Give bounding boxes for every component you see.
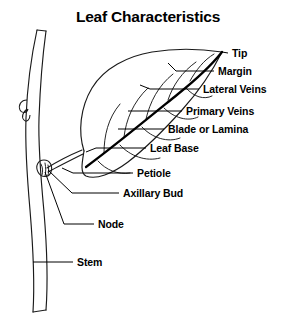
label-base: Leaf Base	[150, 142, 199, 154]
diagram-canvas: Leaf Characteristics T	[0, 0, 293, 335]
leaf-characteristics-diagram: Leaf Characteristics T	[0, 0, 293, 335]
label-stem: Stem	[77, 256, 102, 268]
label-margin: Margin	[218, 65, 252, 77]
stem-lateral-bud-scar-icon	[19, 100, 30, 121]
label-blade: Blade or Lamina	[168, 123, 248, 135]
page-title: Leaf Characteristics	[76, 8, 220, 25]
label-primary: Primary Veins	[186, 105, 254, 117]
axillary-bud-outline	[37, 160, 52, 177]
label-petiole: Petiole	[137, 167, 171, 179]
leader-lateral	[140, 85, 199, 89]
label-axillary: Axillary Bud	[123, 187, 183, 199]
lateral-vein-upper-5	[190, 54, 214, 81]
petiole-upper-edge	[47, 150, 82, 168]
lateral-vein-lower-1	[98, 161, 130, 173]
leader-node	[45, 172, 94, 224]
stem-bottom-cap	[33, 310, 46, 312]
lateral-vein-upper-1	[104, 104, 120, 153]
label-lateral: Lateral Veins	[203, 83, 267, 95]
petiole-drawing	[47, 150, 83, 172]
leader-lines-group	[33, 52, 228, 262]
leader-tip	[222, 52, 228, 53]
axillary-bud-drawing	[37, 160, 52, 177]
labels-group: TipMarginLateral VeinsPrimary VeinsBlade…	[77, 47, 267, 268]
leader-petiole	[62, 168, 133, 173]
label-node: Node	[98, 218, 124, 230]
axillary-bud-scales	[41, 163, 49, 176]
leader-base	[86, 148, 146, 152]
stem-top-cap	[37, 30, 46, 31]
stem-left-edge	[26, 30, 37, 312]
label-tip: Tip	[232, 47, 247, 59]
